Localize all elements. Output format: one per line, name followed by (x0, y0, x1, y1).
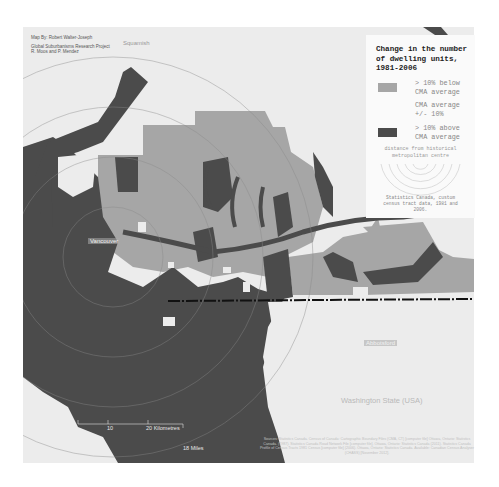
credit-author: Map By: Robert Walter-Joseph (31, 35, 92, 41)
legend-label-below: > 10% below CMA average (415, 79, 470, 97)
scale-10: 10 (107, 425, 113, 431)
place-vancouver: Vancouver (88, 238, 120, 244)
place-abbotsford: Abbotsford (364, 340, 397, 346)
place-washington: Washington State (USA) (341, 396, 422, 405)
scale-20-km: 20 Kilometres (146, 425, 180, 431)
legend: Change in the number of dwelling units, … (366, 35, 475, 218)
scale-miles: 18 Miles (183, 445, 203, 451)
legend-label-above: > 10% above CMA average (415, 124, 470, 142)
legend-swatch-below (378, 83, 397, 92)
legend-distance-label: distance from historical metropolitan ce… (366, 146, 475, 160)
credit-researchers: R. Moos and P. Mendez (31, 49, 79, 55)
legend-source: Statistics Canada, custom census tract d… (366, 195, 475, 213)
place-squamish: Squamish (123, 40, 150, 46)
sources-text: Sources: Statistics Canada. Census of Ca… (258, 437, 476, 456)
legend-title: Change in the number of dwelling units, … (376, 45, 471, 74)
legend-label-average: CMA average +/- 10% (415, 101, 470, 119)
legend-swatch-above (378, 128, 397, 137)
